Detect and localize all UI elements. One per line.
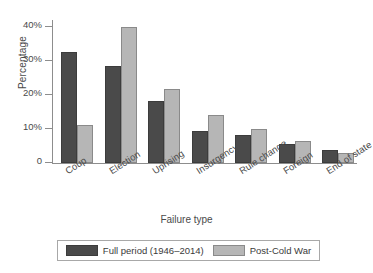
y-axis-tick-label: 0 [37,155,42,166]
bar-group [105,20,137,163]
bar-chart-figure: Percentage 010%20%30%40% CoupElectionUpr… [0,0,373,273]
legend-swatch-dark [66,245,98,256]
legend-entry: Post-Cold War [213,245,311,256]
plot-area: 010%20%30%40% CoupElectionUprisingInsurg… [52,20,357,163]
y-axis-tick-label: 30% [23,53,42,64]
y-axis-tick-label: 10% [23,121,42,132]
bar [148,101,164,163]
legend-label: Post-Cold War [250,245,311,256]
y-axis-tick: 30% [45,60,52,61]
y-axis-tick: 20% [45,94,52,95]
bar-group [322,20,354,163]
y-axis-tick: 0 [45,162,52,163]
chart-legend: Full period (1946–2014)Post-Cold War [57,240,320,261]
bar-group [235,20,267,163]
bar [61,52,77,163]
y-axis-line [52,20,53,164]
y-axis-tick-label: 20% [23,87,42,98]
bar-group [61,20,93,163]
legend-label: Full period (1946–2014) [103,245,204,256]
y-axis-tick-label: 40% [23,19,42,30]
legend-entry: Full period (1946–2014) [66,245,204,256]
legend-swatch-light [213,245,245,256]
bar-group [192,20,224,163]
x-axis-title: Failure type [0,214,373,225]
y-axis-tick: 10% [45,128,52,129]
bar-group [148,20,180,163]
bar [105,66,121,163]
bar [121,27,137,163]
y-axis-tick: 40% [45,26,52,27]
